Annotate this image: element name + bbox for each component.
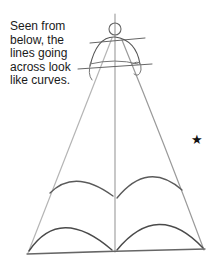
base-line [27,249,205,254]
left-shoulder [89,62,92,80]
lower-right-arch [117,224,203,250]
upper-horizon-line [90,38,145,43]
upper-left-arch [50,181,113,196]
perspective-sketch [0,0,218,267]
upper-right-arch [117,177,182,198]
left-perspective-line [28,38,112,253]
lower-left-arch [29,228,112,251]
star-icon: ★ [191,133,203,146]
